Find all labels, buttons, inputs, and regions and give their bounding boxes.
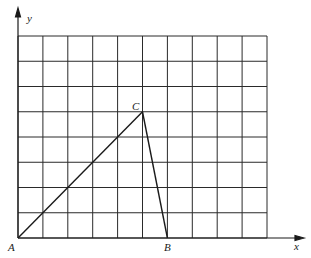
point-label-b: B [164,242,171,253]
y-axis-label: y [27,13,32,24]
grid-lines [18,36,267,238]
segment-cb [143,112,168,238]
point-label-a: A [8,242,15,253]
point-label-c: C [132,101,139,112]
x-axis-label: x [294,241,299,252]
grid-diagram [0,0,311,258]
segment-ac [18,112,143,238]
y-axis-arrow-icon [16,8,21,17]
axes [16,8,305,241]
